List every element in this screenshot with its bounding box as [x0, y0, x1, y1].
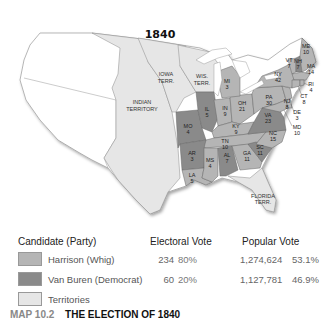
state-votes-ct: 8	[302, 99, 305, 105]
legend-header-popular: Popular Vote	[242, 236, 299, 247]
label-florida-terr-2: TERR.	[255, 199, 272, 205]
state-votes-nc: 15	[270, 136, 276, 142]
state-votes-nj: 8	[285, 104, 288, 110]
state-votes-ma: 14	[308, 69, 314, 75]
state-votes-ms: 4	[208, 163, 211, 169]
popular-votes: 1,127,781	[240, 274, 282, 285]
popular-pct: 53.1%	[292, 254, 319, 265]
popular-votes: 1,274,624	[240, 254, 282, 265]
state-votes-al: 7	[225, 158, 228, 164]
state-votes-ny: 42	[275, 77, 281, 83]
electoral-votes: 234	[150, 254, 174, 265]
state-votes-mi: 3	[225, 84, 228, 90]
map-title: 1840	[145, 28, 176, 41]
caption-title: THE ELECTION OF 1840	[65, 309, 180, 320]
electoral-pct: 80%	[178, 254, 197, 265]
candidate-label: Van Buren (Democrat)	[48, 274, 142, 285]
state-votes-vt: 7	[287, 63, 290, 69]
state-ri	[300, 80, 304, 86]
swatch-democrat	[18, 272, 42, 286]
leader-md	[284, 110, 292, 126]
label-iowa-terr: IOWA	[159, 71, 174, 77]
caption-number: MAP 10.2	[10, 309, 54, 320]
legend-header-electoral: Electoral Vote	[150, 236, 212, 247]
label-wis-terr: WIS.	[196, 73, 208, 79]
state-votes-me: 10	[303, 49, 309, 55]
state-votes-mo: 4	[186, 129, 189, 135]
state-votes-nh: 7	[296, 64, 299, 70]
state-votes-ga: 11	[244, 156, 250, 162]
state-votes-de: 3	[295, 115, 298, 121]
swatch-whig	[18, 252, 42, 266]
state-votes-la: 5	[190, 178, 193, 184]
legend-row-harrison: Harrison (Whig) 234 80% 1,274,624 53.1%	[18, 252, 328, 268]
label-iowa-terr-2: TERR.	[158, 78, 175, 84]
state-votes-ky: 9	[234, 129, 237, 135]
legend-row-territories: Territories	[18, 292, 328, 308]
state-votes-pa: 30	[266, 100, 272, 106]
election-map: 1840 IOWA TERR. WIS. TERR. INDIAN TERRIT…	[0, 0, 332, 232]
label-indian-terr-2: TERRITORY	[126, 106, 158, 112]
state-votes-va: 23	[265, 118, 271, 124]
candidate-label: Harrison (Whig)	[48, 254, 115, 265]
label-indian-terr: INDIAN	[133, 99, 152, 105]
state-votes-tn: 10	[222, 144, 228, 150]
popular-pct: 46.9%	[292, 274, 319, 285]
state-votes-ar: 3	[190, 156, 193, 162]
legend-header-candidate: Candidate (Party)	[18, 236, 96, 247]
state-votes-in: 9	[223, 111, 226, 117]
territories-label: Territories	[48, 294, 90, 305]
label-wis-terr-2: TERR.	[194, 80, 211, 86]
electoral-pct: 20%	[178, 274, 197, 285]
state-votes-ri: 4	[309, 87, 312, 93]
map-caption: MAP 10.2 THE ELECTION OF 1840	[10, 309, 180, 320]
electoral-votes: 60	[150, 274, 174, 285]
legend-row-van-buren: Van Buren (Democrat) 60 20% 1,127,781 46…	[18, 272, 328, 288]
state-votes-oh: 21	[239, 106, 245, 112]
swatch-territory	[18, 292, 42, 306]
state-votes-il: 5	[205, 112, 208, 118]
state-votes-sc: 11	[257, 150, 263, 156]
state-votes-md: 10	[294, 130, 300, 136]
